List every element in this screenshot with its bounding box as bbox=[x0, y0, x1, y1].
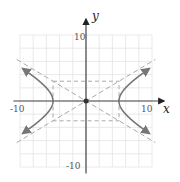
x-tick-neg10: -10 bbox=[10, 104, 25, 114]
y-tick-neg10: -10 bbox=[66, 161, 81, 171]
hyperbola-plot: -10 10 10 -10 x y bbox=[0, 0, 180, 182]
y-axis-label: y bbox=[91, 9, 99, 23]
x-axis-label: x bbox=[163, 102, 170, 116]
y-tick-10: 10 bbox=[74, 32, 86, 42]
center-point bbox=[84, 99, 89, 104]
axes bbox=[13, 19, 163, 173]
x-tick-10: 10 bbox=[141, 104, 153, 114]
